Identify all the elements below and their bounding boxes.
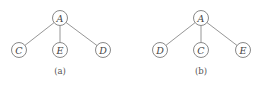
tree-node-e: E — [236, 43, 251, 58]
node-label: A — [56, 13, 64, 24]
tree-node-d: D — [96, 43, 111, 58]
node-label: A — [197, 13, 205, 24]
diagram-caption: (b) — [195, 66, 207, 76]
tree-node-c: C — [12, 43, 27, 58]
tree-node-d: D — [153, 43, 168, 58]
node-label: E — [56, 45, 64, 56]
tree-edge — [207, 23, 237, 46]
tree-edge — [66, 22, 97, 45]
tree-diagram-b: ADCE(b) — [153, 11, 251, 77]
tree-diagrams-canvas: ACED(a)ADCE(b) — [0, 0, 262, 89]
diagram-caption: (a) — [54, 66, 66, 76]
tree-node-a: A — [53, 11, 68, 26]
node-label: D — [98, 45, 107, 56]
tree-diagram-a: ACED(a) — [12, 11, 111, 77]
node-label: C — [197, 45, 205, 56]
tree-node-a: A — [194, 11, 209, 26]
tree-edge — [25, 23, 54, 46]
tree-edge — [166, 23, 195, 46]
node-label: D — [155, 45, 164, 56]
tree-node-c: C — [194, 43, 209, 58]
node-label: E — [239, 45, 247, 56]
tree-node-e: E — [53, 43, 68, 58]
node-label: C — [15, 45, 23, 56]
